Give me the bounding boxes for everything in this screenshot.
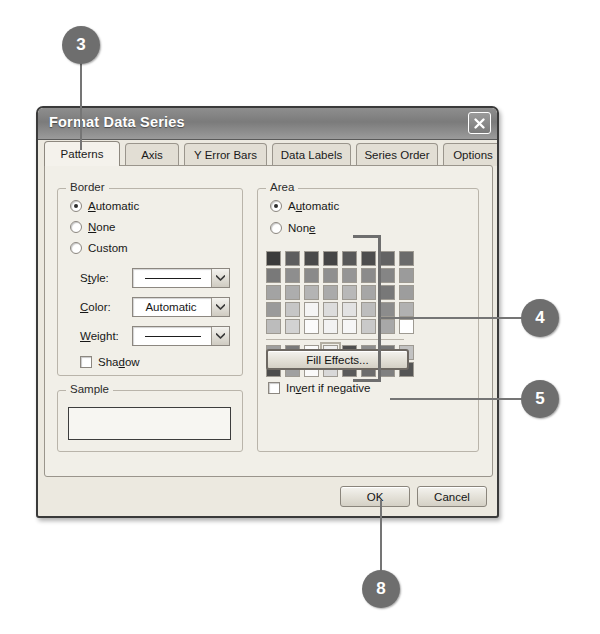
checkbox-indicator [80, 356, 92, 368]
chevron-down-icon[interactable] [211, 327, 229, 345]
palette-swatch[interactable] [361, 268, 376, 283]
close-icon[interactable] [468, 112, 491, 134]
palette-swatch[interactable] [304, 285, 319, 300]
tab-series-order[interactable]: Series Order [356, 143, 438, 166]
border-color-value: Automatic [133, 301, 211, 313]
patterns-tab-page: Border Automatic None Custom Style: [44, 165, 493, 477]
palette-swatch[interactable] [304, 319, 319, 334]
border-color-combo[interactable]: Automatic [132, 297, 230, 317]
radio-label: Custom [88, 242, 128, 254]
border-weight-combo[interactable] [132, 326, 230, 346]
tab-label: Axis [141, 149, 163, 161]
checkbox-indicator [268, 382, 280, 394]
palette-swatch[interactable] [380, 268, 395, 283]
palette-swatch[interactable] [285, 251, 300, 266]
radio-indicator [270, 222, 282, 234]
invert-if-negative-checkbox[interactable]: Invert if negative [268, 382, 370, 394]
palette-swatch[interactable] [323, 285, 338, 300]
chevron-down-icon[interactable] [211, 269, 229, 287]
radio-indicator [270, 200, 282, 212]
palette-swatch[interactable] [266, 319, 281, 334]
leader-line-4 [380, 317, 524, 319]
radio-indicator [70, 200, 82, 212]
palette-swatch[interactable] [304, 268, 319, 283]
palette-swatch[interactable] [399, 251, 414, 266]
palette-swatch[interactable] [380, 319, 395, 334]
checkbox-label: Shadow [98, 356, 140, 368]
chevron-down-icon[interactable] [211, 298, 229, 316]
border-weight-label: Weight: [80, 330, 132, 342]
palette-swatch[interactable] [361, 319, 376, 334]
palette-swatch[interactable] [361, 285, 376, 300]
border-radio-automatic[interactable]: Automatic [70, 200, 139, 212]
radio-label: Automatic [288, 200, 339, 212]
shadow-checkbox[interactable]: Shadow [80, 356, 140, 368]
tab-axis[interactable]: Axis [125, 143, 179, 166]
palette-swatch[interactable] [304, 302, 319, 317]
area-radio-none[interactable]: None [270, 222, 316, 234]
palette-swatch[interactable] [399, 319, 414, 334]
palette-swatch[interactable] [285, 268, 300, 283]
palette-swatch[interactable] [380, 285, 395, 300]
leader-line-5 [390, 398, 524, 400]
dialog-tabstrip: Patterns Axis Y Error Bars Data Labels S… [38, 140, 497, 166]
palette-swatch[interactable] [323, 319, 338, 334]
leader-line-8 [380, 500, 382, 574]
palette-swatch[interactable] [342, 251, 357, 266]
palette-swatch[interactable] [342, 285, 357, 300]
callout-marker-3: 3 [62, 26, 100, 64]
palette-swatch[interactable] [266, 251, 281, 266]
tab-y-error-bars[interactable]: Y Error Bars [184, 143, 267, 166]
area-radio-automatic[interactable]: Automatic [270, 200, 339, 212]
palette-swatch[interactable] [399, 268, 414, 283]
dialog-title: Format Data Series [49, 114, 185, 130]
palette-swatch[interactable] [399, 302, 414, 317]
tab-options[interactable]: Options [443, 143, 499, 166]
radio-label: Automatic [88, 200, 139, 212]
palette-swatch[interactable] [323, 251, 338, 266]
palette-swatch[interactable] [361, 302, 376, 317]
area-group: Area Automatic None Fill Effect [257, 188, 479, 452]
line-preview-icon [145, 336, 201, 337]
palette-swatch[interactable] [304, 251, 319, 266]
tab-label: Y Error Bars [194, 149, 257, 161]
dialog-footer: OK Cancel [44, 482, 493, 512]
palette-swatch[interactable] [323, 302, 338, 317]
palette-main-grid [266, 251, 416, 334]
cancel-label: Cancel [434, 491, 470, 503]
palette-swatch[interactable] [342, 268, 357, 283]
palette-annotation-bracket-top [353, 235, 381, 238]
border-radio-custom[interactable]: Custom [70, 242, 128, 254]
palette-swatch[interactable] [266, 302, 281, 317]
sample-preview [68, 407, 231, 440]
leader-line-3 [80, 62, 82, 150]
border-style-combo[interactable] [132, 268, 230, 288]
border-style-row: Style: [80, 268, 230, 288]
tab-patterns[interactable]: Patterns [44, 141, 120, 166]
palette-swatch[interactable] [342, 319, 357, 334]
tab-label: Series Order [364, 149, 429, 161]
palette-swatch[interactable] [342, 302, 357, 317]
palette-swatch[interactable] [380, 302, 395, 317]
border-radio-none[interactable]: None [70, 221, 116, 233]
palette-swatch[interactable] [323, 268, 338, 283]
palette-swatch[interactable] [285, 302, 300, 317]
page-root: 3 4 5 8 Format Data Series Patterns Axis… [0, 0, 600, 634]
palette-swatch[interactable] [399, 285, 414, 300]
ok-button[interactable]: OK [340, 486, 410, 507]
tab-data-labels[interactable]: Data Labels [272, 143, 351, 166]
palette-swatch[interactable] [266, 268, 281, 283]
palette-swatch[interactable] [266, 285, 281, 300]
line-preview-icon [145, 278, 201, 279]
area-group-label: Area [266, 181, 298, 193]
palette-swatch[interactable] [285, 319, 300, 334]
cancel-button[interactable]: Cancel [417, 486, 487, 507]
border-weight-row: Weight: [80, 326, 230, 346]
palette-swatch[interactable] [361, 251, 376, 266]
dialog-titlebar[interactable]: Format Data Series [38, 108, 497, 140]
sample-group: Sample [57, 390, 243, 452]
fill-effects-button[interactable]: Fill Effects... [266, 349, 409, 370]
palette-swatch[interactable] [285, 285, 300, 300]
callout-marker-4: 4 [521, 299, 559, 337]
palette-swatch[interactable] [380, 251, 395, 266]
